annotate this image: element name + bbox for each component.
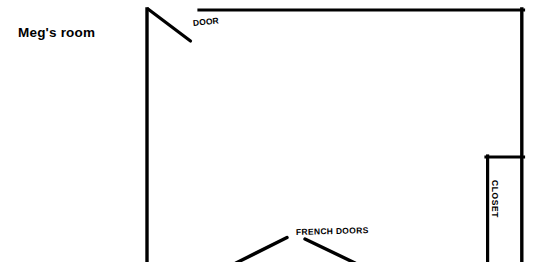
french-door-right-leaf bbox=[305, 239, 355, 262]
closet-label: CLOSET bbox=[491, 180, 500, 218]
floor-plan-page: Meg's room DOOR FRENCH DOORS CLOSET bbox=[0, 0, 545, 262]
french-doors-group bbox=[236, 238, 355, 262]
french-door-left-leaf bbox=[236, 238, 287, 262]
french-doors-label: FRENCH DOORS bbox=[296, 226, 369, 236]
walls-group bbox=[147, 9, 524, 262]
door-group bbox=[148, 9, 191, 41]
floor-plan-drawing bbox=[0, 0, 545, 262]
door-leaf bbox=[148, 9, 191, 41]
